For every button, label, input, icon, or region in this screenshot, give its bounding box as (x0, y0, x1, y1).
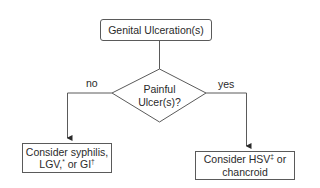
decision-line-1: Painful (122, 83, 197, 96)
outcome-node-yes-consider-hsv: Consider HSV‡ or chancroid (195, 151, 295, 180)
start-node-genital-ulcerations: Genital Ulceration(s) (100, 19, 212, 41)
no-outcome-line-2: LGV,* or GI† (39, 158, 94, 171)
no-outcome-line-1: Consider syphilis, (26, 146, 108, 159)
start-node-label: Genital Ulceration(s) (108, 24, 204, 37)
branch-label-yes: yes (218, 78, 234, 90)
outcome-node-no-consider-syphilis: Consider syphilis, LGV,* or GI† (22, 143, 112, 173)
branch-label-no: no (86, 77, 98, 89)
decision-node-label: Painful Ulcer(s)? (122, 83, 197, 108)
yes-outcome-line-2: chancroid (222, 166, 268, 179)
decision-line-2: Ulcer(s)? (122, 96, 197, 109)
connector-no-branch (68, 93, 113, 138)
connector-yes-branch (206, 93, 247, 146)
yes-outcome-line-1: Consider HSV‡ or (204, 153, 286, 166)
